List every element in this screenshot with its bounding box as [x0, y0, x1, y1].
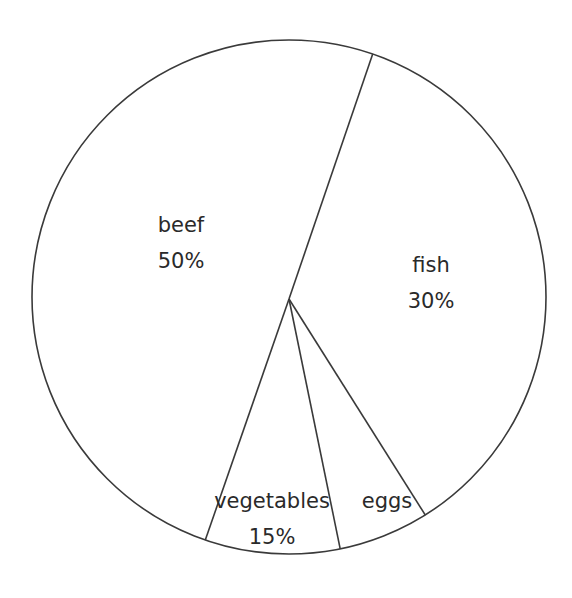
- value-beef: 50%: [158, 249, 205, 273]
- label-beef: beef: [158, 213, 205, 237]
- value-vegetables: 15%: [249, 525, 296, 549]
- label-eggs: eggs: [362, 489, 413, 513]
- label-fish: fish: [412, 253, 449, 277]
- label-vegetables: vegetables: [214, 489, 330, 513]
- pie-chart: beef 50% fish 30% vegetables 15% eggs: [0, 0, 572, 598]
- value-fish: 30%: [408, 289, 455, 313]
- edge-beef-fish: [289, 54, 373, 299]
- edge-fish-eggs: [289, 299, 425, 515]
